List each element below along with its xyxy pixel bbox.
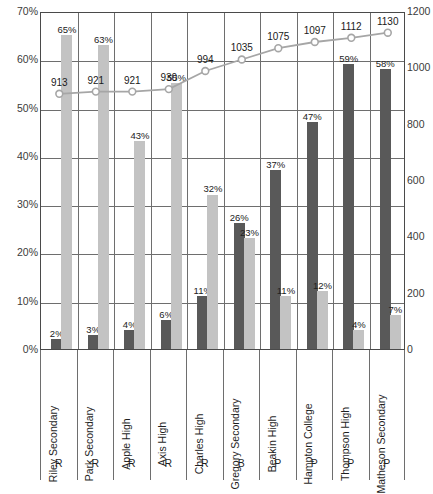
bar-light — [353, 330, 364, 349]
bar-dark-label: 59% — [329, 54, 369, 64]
category-code: B — [238, 457, 245, 469]
category-code: R — [128, 457, 136, 469]
x-axis-label-cell: Hampton College — [296, 350, 333, 446]
x-axis-label-cell: Charles High — [186, 350, 223, 446]
bar-light — [280, 296, 291, 349]
right-axis-tick: 1200 — [407, 6, 433, 17]
line-point-label: 1035 — [220, 42, 264, 53]
category-code-cell: P — [332, 446, 369, 480]
category-code-cell: P — [296, 446, 333, 480]
x-axis-label-cell: Apple High — [113, 350, 150, 446]
x-axis-label-cell: Riley Secondary — [40, 350, 77, 446]
bar-light — [207, 195, 218, 350]
right-axis-tick: 200 — [407, 288, 433, 299]
category-code-cell: P — [259, 446, 296, 480]
left-axis-tick: 70% — [0, 6, 38, 17]
bar-light — [244, 238, 255, 349]
category-code: P — [311, 457, 318, 469]
bar-light — [98, 45, 109, 349]
x-axis-label-cell: Axis High — [150, 350, 187, 446]
category-code-cell: R — [113, 446, 150, 480]
category-code: P — [383, 457, 390, 469]
line-point-label: 1130 — [366, 16, 410, 27]
x-axis-label-cell: Matheson Secondary — [369, 350, 406, 446]
category-column: 3%63% — [78, 13, 115, 349]
right-axis-tick: 600 — [407, 175, 433, 186]
bar-light — [317, 291, 328, 349]
category-column: 2%65% — [41, 13, 78, 349]
category-column: 37%11% — [260, 13, 297, 349]
x-axis-label-cell: Gregory Secondary — [223, 350, 260, 446]
category-code-row: RRRRRBPPPP — [40, 446, 405, 480]
category-code: R — [201, 457, 209, 469]
left-axis-tick: 20% — [0, 247, 38, 258]
category-column: 26%23% — [224, 13, 261, 349]
x-axis-label-cell: Park Secondary — [77, 350, 114, 446]
category-column: 47%12% — [297, 13, 334, 349]
right-axis-tick: 800 — [407, 119, 433, 130]
left-axis-tick: 10% — [0, 296, 38, 307]
left-axis-tick: 50% — [0, 103, 38, 114]
bar-light-label: 7% — [375, 305, 415, 315]
left-axis-tick: 30% — [0, 199, 38, 210]
right-axis-tick: 0 — [407, 344, 433, 355]
category-code: R — [55, 457, 63, 469]
bar-dark-label: 26% — [219, 213, 259, 223]
category-column: 4%43% — [114, 13, 151, 349]
category-code-cell: R — [77, 446, 114, 480]
x-axis-labels: Riley SecondaryPark SecondaryApple HighA… — [40, 350, 405, 446]
line-point-label: 930 — [147, 72, 191, 83]
right-axis-tick: 400 — [407, 231, 433, 242]
category-code-cell: R — [150, 446, 187, 480]
category-column: 58%7% — [370, 13, 407, 349]
category-code: P — [347, 457, 354, 469]
left-axis-tick: 40% — [0, 151, 38, 162]
bar-light — [134, 141, 145, 349]
category-code: R — [164, 457, 172, 469]
right-axis-tick: 1000 — [407, 62, 433, 73]
category-code-cell: B — [223, 446, 260, 480]
bar-light — [390, 315, 401, 349]
bar-light — [171, 83, 182, 349]
left-axis-tick: 60% — [0, 54, 38, 65]
left-axis-tick: 0% — [0, 344, 38, 355]
category-code-cell: P — [369, 446, 406, 480]
x-axis-label-cell: Thompson High — [332, 350, 369, 446]
category-code: P — [274, 457, 281, 469]
category-code-cell: R — [40, 446, 77, 480]
plot-area: 2%65%3%63%4%43%6%55%11%32%26%23%37%11%47… — [40, 12, 405, 350]
category-column: 6%55% — [151, 13, 188, 349]
category-column: 59%4% — [333, 13, 370, 349]
category-code: R — [91, 457, 99, 469]
x-axis-label-cell: Beakin High — [259, 350, 296, 446]
bar-dark — [343, 64, 354, 349]
bar-dark-label: 37% — [256, 160, 296, 170]
line-point-label: 994 — [183, 54, 227, 65]
bar-dark-label: 47% — [292, 112, 332, 122]
category-code-cell: R — [186, 446, 223, 480]
bar-dark-label: 58% — [365, 59, 405, 69]
